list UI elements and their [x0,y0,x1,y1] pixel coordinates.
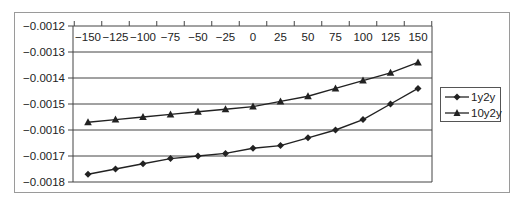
legend: 1y2y 10y2y [440,87,501,122]
legend-item-1y2y: 1y2y [441,89,500,105]
series-1y2y [85,85,422,178]
x-tick-label: −125 [103,31,129,43]
y-tick-label: −0.0014 [23,72,65,84]
y-tick-label: −0.0013 [23,46,65,58]
y-axis-tick-labels: −0.0012−0.0013−0.0014−0.0015−0.0016−0.00… [23,20,65,188]
diamond-marker-icon [85,171,92,178]
x-tick-label: 0 [250,31,256,43]
x-tick-label: −25 [216,31,236,43]
diamond-marker-icon [360,116,367,123]
y-tick-label: −0.0017 [23,150,65,162]
x-tick-label: −50 [188,31,208,43]
diamond-marker-icon [277,142,284,149]
x-tick-label: 125 [381,31,400,43]
x-tick-label: −75 [161,31,181,43]
x-tick-label: 75 [329,31,342,43]
x-tick-label: 25 [274,31,287,43]
x-tick-label: −150 [75,31,101,43]
y-tick-label: −0.0018 [23,176,65,188]
y-tick-label: −0.0015 [23,98,65,110]
legend-label: 1y2y [471,89,495,105]
x-tick-label: −100 [130,31,156,43]
diamond-marker-icon [195,153,202,160]
x-tick-label: 50 [302,31,315,43]
x-tick-label: 150 [408,31,427,43]
triangle-marker-icon [414,58,422,65]
axes [68,21,432,182]
diamond-marker-icon [112,166,119,173]
diamond-marker-icon [305,134,312,141]
legend-item-10y2y: 10y2y [441,105,500,121]
diamond-marker-icon [250,145,257,152]
diamond-marker-icon [332,127,339,134]
legend-label: 10y2y [471,105,502,121]
diamond-marker-icon [444,89,470,105]
triangle-marker-icon [444,105,470,121]
data-series [84,58,422,177]
x-axis-tick-labels: −150−125−100−75−50−250255075100125150 [75,31,428,43]
diamond-marker-icon [140,160,147,167]
diamond-marker-icon [387,101,394,108]
y-tick-label: −0.0016 [23,124,65,136]
diamond-marker-icon [415,85,422,92]
x-tick-label: 100 [353,31,372,43]
y-tick-label: −0.0012 [23,20,65,32]
